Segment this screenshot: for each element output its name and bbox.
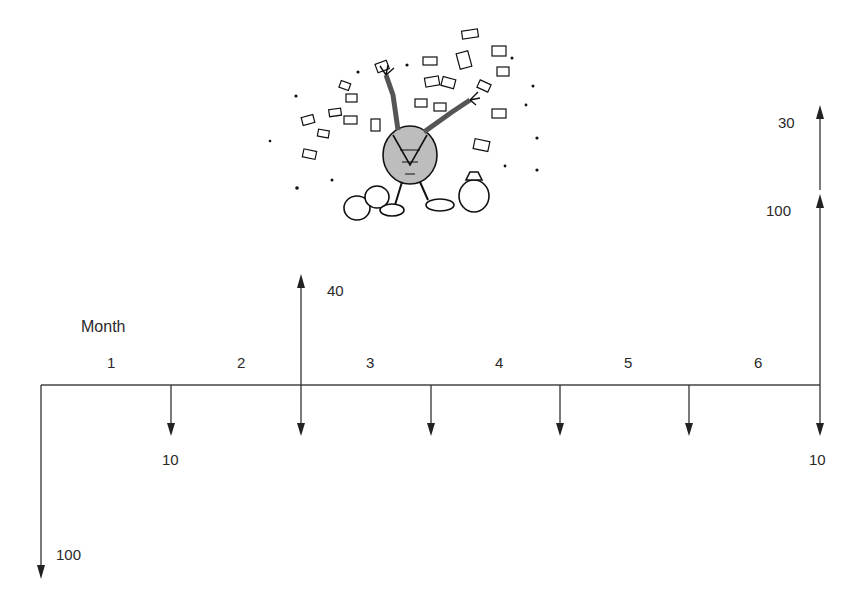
amount-label-in-month2: 40 [327, 283, 344, 298]
amount-label-in-month6-100: 100 [766, 203, 791, 218]
arrow-in-month6-100 [816, 194, 824, 208]
arrow-out-month1 [167, 385, 175, 436]
amount-label-out-month6: 10 [809, 452, 826, 467]
arrow-out-initial [37, 385, 45, 579]
period-label-5: 5 [624, 355, 632, 370]
cash-flow-diagram [0, 0, 863, 610]
period-label-6: 6 [754, 355, 762, 370]
period-label-1: 1 [107, 355, 115, 370]
amount-label-out-month1: 10 [162, 452, 179, 467]
amount-label-out-initial: 100 [56, 547, 81, 562]
money-cartoon-illustration [269, 29, 539, 220]
period-label-2: 2 [237, 355, 245, 370]
arrow-in-month6-30 [816, 105, 824, 190]
arrow-out-month5 [685, 385, 693, 436]
arrow-out-month6 [816, 200, 824, 436]
period-label-3: 3 [366, 355, 374, 370]
arrow-in-month2 [297, 274, 305, 288]
amount-label-in-month6-30: 30 [778, 115, 795, 130]
period-label-4: 4 [495, 355, 503, 370]
axis-label-month: Month [81, 319, 125, 335]
arrow-out-month3 [427, 385, 435, 436]
arrow-out-month4 [556, 385, 564, 436]
arrow-out-month2 [297, 288, 305, 436]
